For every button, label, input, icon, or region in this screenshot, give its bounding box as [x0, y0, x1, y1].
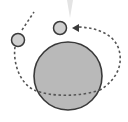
direction-arrowhead — [72, 24, 79, 32]
callout-pointer — [40, 0, 100, 18]
large-planet — [34, 42, 102, 110]
orbit-diagram — [0, 0, 128, 122]
moon-left — [12, 34, 25, 47]
dashed-orbit-path-upper-left — [22, 12, 34, 30]
moon-top — [54, 22, 67, 35]
